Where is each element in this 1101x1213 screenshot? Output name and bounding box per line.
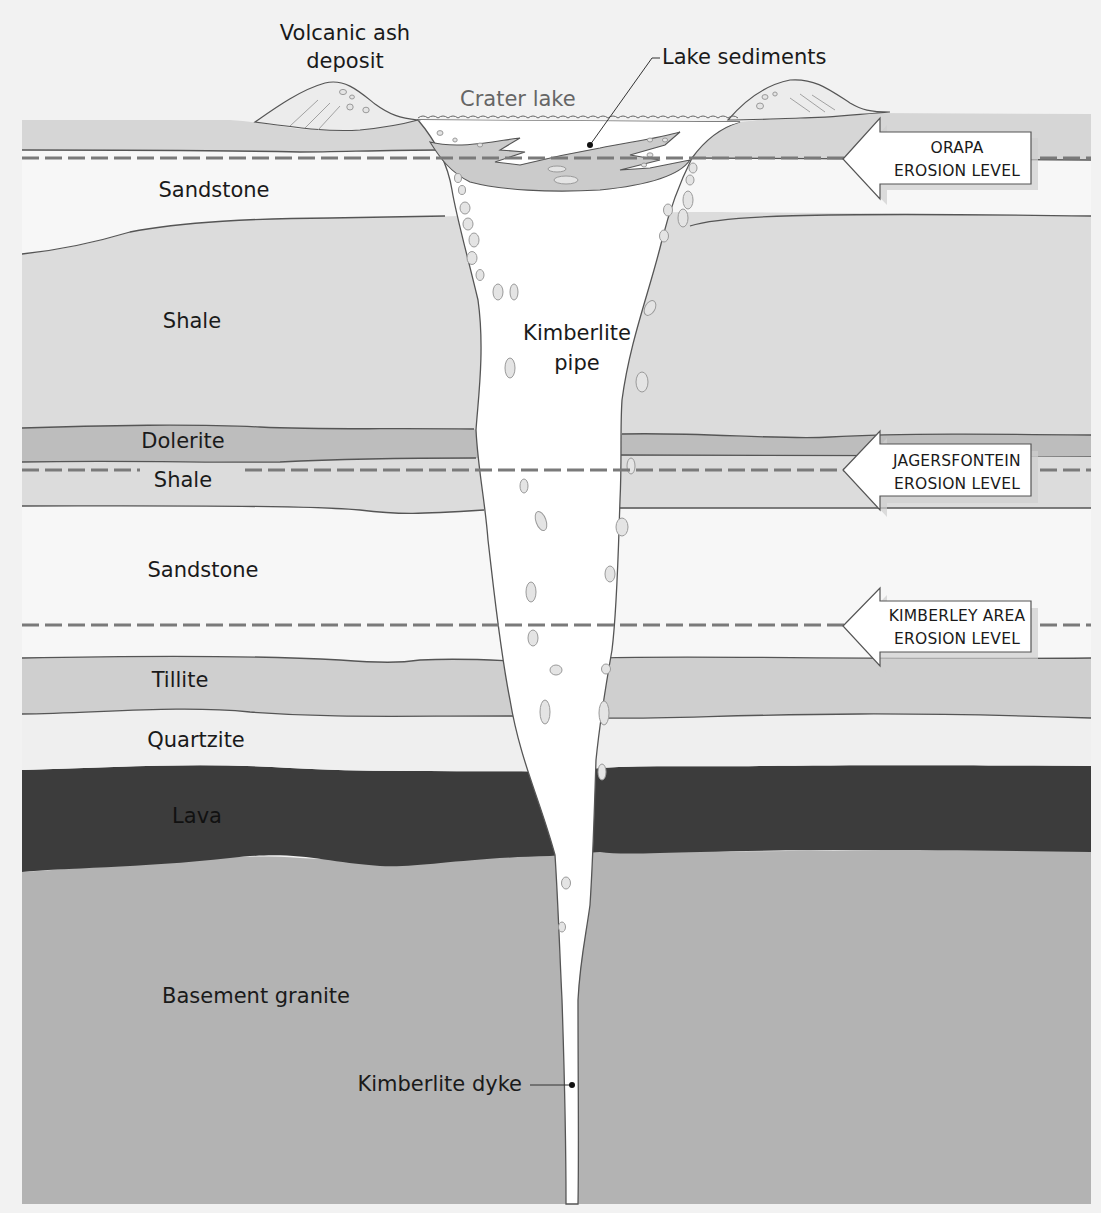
volcanic-ash-mound-left [255, 82, 418, 131]
erosion-level-3-line1: KIMBERLEY AREA [889, 607, 1026, 625]
layer-label-lava: Lava [172, 804, 222, 828]
erosion-level-1-line1: ORAPA [931, 139, 984, 157]
crater-lake-surface [418, 116, 738, 118]
erosion-level-3-line2: EROSION LEVEL [894, 630, 1020, 648]
crater-lake-label: Crater lake [460, 87, 576, 111]
erosion-level-2-line1: JAGERSFONTEIN [892, 452, 1021, 470]
erosion-level-1-line2: EROSION LEVEL [894, 162, 1020, 180]
layer-label-tillite: Tillite [151, 668, 209, 692]
layer-basement-granite [22, 848, 1091, 1204]
layer-label-sandstone-lower: Sandstone [147, 558, 258, 582]
layer-label-shale-upper: Shale [163, 309, 221, 333]
layer-label-sandstone-upper: Sandstone [158, 178, 269, 202]
volcanic-ash-label-line2: deposit [306, 49, 383, 73]
layer-label-basement-granite: Basement granite [162, 984, 350, 1008]
kimberlite-pipe-label-line2: pipe [554, 351, 599, 375]
lake-sediments-label: Lake sediments [662, 45, 826, 69]
kimberlite-dyke-label: Kimberlite dyke [357, 1072, 522, 1096]
layer-label-quartzite: Quartzite [147, 728, 245, 752]
volcanic-ash-mound-right [728, 80, 890, 120]
kimberlite-cross-section-diagram: ORAPA EROSION LEVEL JAGERSFONTEIN EROSIO… [0, 0, 1101, 1213]
layer-label-dolerite: Dolerite [141, 429, 224, 453]
erosion-level-2-line2: EROSION LEVEL [894, 475, 1020, 493]
volcanic-ash-label-line1: Volcanic ash [280, 21, 410, 45]
layer-label-shale-lower: Shale [154, 468, 212, 492]
kimberlite-pipe-label-line1: Kimberlite [523, 321, 631, 345]
